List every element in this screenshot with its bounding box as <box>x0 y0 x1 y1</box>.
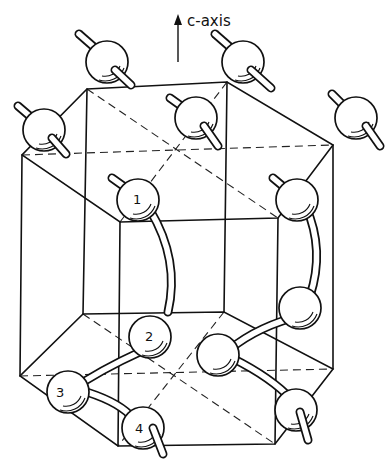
crystal-structure-diagram: c-axis <box>0 0 391 463</box>
svg-text:1: 1 <box>133 192 141 207</box>
top-atoms <box>18 34 380 154</box>
svg-text:2: 2 <box>145 329 153 344</box>
atom-1: 1 <box>112 178 159 221</box>
c-axis-label: c-axis <box>187 12 231 30</box>
atom-3: 3 <box>47 371 89 413</box>
svg-text:3: 3 <box>56 385 64 400</box>
chain-atoms: 1 2 3 4 <box>47 178 321 454</box>
c-axis-arrow <box>174 14 182 62</box>
atom-2: 2 <box>129 316 171 358</box>
svg-text:4: 4 <box>135 421 143 436</box>
atom-4: 4 <box>122 407 164 454</box>
